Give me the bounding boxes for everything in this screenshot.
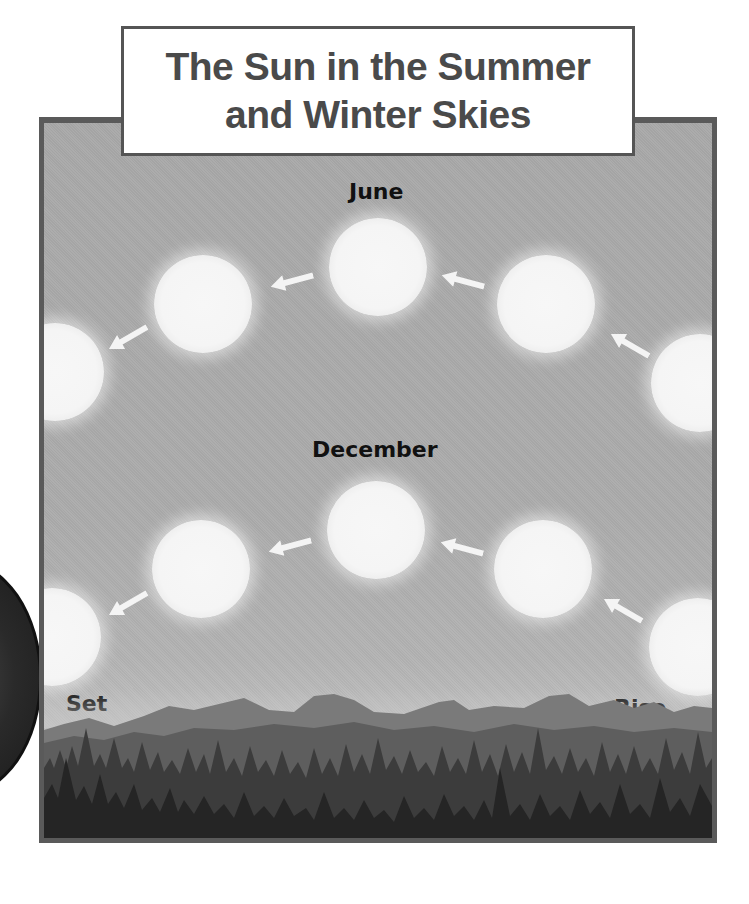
- december-sun-noon: [327, 481, 425, 579]
- december-sun-afternoon: [152, 520, 250, 618]
- december-sun-morning: [494, 520, 592, 618]
- title-box: The Sun in the Summer and Winter Skies: [121, 26, 635, 156]
- title-line-2: and Winter Skies: [225, 91, 531, 139]
- title-line-1: The Sun in the Summer: [165, 43, 590, 91]
- june-label: June: [349, 179, 403, 204]
- mountain-forest-horizon: [44, 688, 712, 838]
- december-label: December: [312, 437, 438, 462]
- sky-illustration-frame: June December Set Rise: [39, 117, 717, 843]
- partial-globe-graphic: [0, 560, 42, 796]
- june-sun-morning: [497, 255, 595, 353]
- june-sun-noon: [329, 218, 427, 316]
- june-sun-afternoon: [154, 255, 252, 353]
